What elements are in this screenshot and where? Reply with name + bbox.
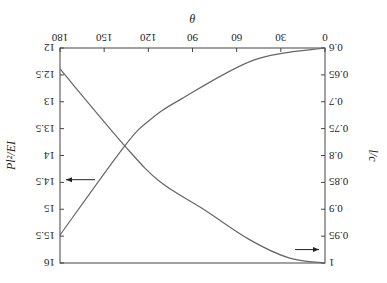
right-tick-label: 16 (44, 257, 56, 269)
plot-frame (60, 48, 325, 263)
right-tick-label: 13 (44, 96, 56, 108)
chart-stage: 0306090120150180θ0.60.650.70.750.80.850.… (0, 0, 387, 283)
arrowhead-icon (66, 177, 72, 182)
left-tick-label: 0.85 (329, 176, 349, 188)
left-axis-title: l/c (366, 150, 380, 163)
curve-load-parameter (60, 48, 325, 235)
chart: 0306090120150180θ0.60.650.70.750.80.850.… (0, 0, 387, 283)
right-tick-label: 15.5 (35, 230, 55, 242)
x-tick-label: 90 (187, 32, 199, 44)
right-tick-label: 15 (44, 203, 56, 215)
x-tick-label: 60 (231, 32, 243, 44)
left-tick-label: 0.75 (329, 123, 349, 135)
left-tick-label: 0.6 (329, 42, 343, 54)
left-tick-label: 0.9 (329, 203, 343, 215)
curve-length-ratio (60, 69, 325, 263)
x-tick-label: 0 (322, 32, 328, 44)
x-tick-label: 30 (275, 32, 287, 44)
x-tick-label: 150 (95, 32, 112, 44)
left-tick-label: 0.65 (329, 69, 349, 81)
axes (60, 48, 325, 263)
left-tick-label: 0.7 (329, 96, 343, 108)
left-tick-label: 0.95 (329, 230, 349, 242)
right-tick-label: 12 (44, 42, 55, 54)
left-tick-label: 1 (329, 257, 335, 269)
x-tick-label: 120 (140, 32, 157, 44)
arrowhead-icon (313, 247, 319, 252)
right-tick-label: 13.5 (35, 123, 55, 135)
right-tick-label: 14 (44, 150, 56, 162)
x-axis-title: θ (189, 11, 195, 25)
curves (60, 48, 325, 263)
right-tick-label: 14.5 (35, 176, 55, 188)
right-axis-title: Pl²/EI (4, 140, 18, 171)
left-tick-label: 0.8 (329, 150, 343, 162)
right-tick-label: 12.5 (35, 69, 55, 81)
